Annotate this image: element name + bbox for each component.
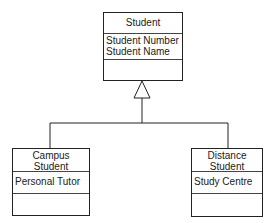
attribute: Student Number	[104, 35, 182, 46]
class-name-section: Campus Student	[13, 149, 89, 172]
attribute: Student Name	[104, 46, 182, 57]
class-name-line: Distance	[192, 150, 262, 161]
class-name-line: Campus	[13, 150, 89, 161]
generalization-arrowhead	[134, 81, 150, 98]
attribute: Personal Tutor	[13, 176, 89, 187]
attributes-section: Personal Tutor	[13, 172, 89, 194]
operations-section	[104, 60, 182, 80]
class-name-section: Distance Student	[192, 149, 262, 172]
class-student[interactable]: Student Student Number Student Name	[103, 12, 183, 81]
class-name-line: Student	[13, 161, 89, 172]
attribute: Study Centre	[192, 176, 262, 187]
class-name-line: Student	[192, 161, 262, 172]
class-name-section: Student	[104, 13, 182, 34]
attributes-section: Study Centre	[192, 172, 262, 194]
class-name: Student	[104, 17, 182, 28]
class-distance-student[interactable]: Distance Student Study Centre	[191, 148, 263, 217]
operations-section	[192, 194, 262, 216]
operations-section	[13, 194, 89, 215]
class-campus-student[interactable]: Campus Student Personal Tutor	[12, 148, 90, 216]
attributes-section: Student Number Student Name	[104, 34, 182, 60]
